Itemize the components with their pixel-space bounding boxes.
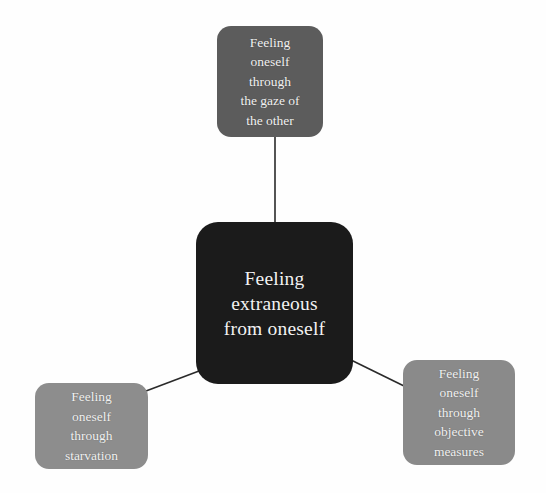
node-feeling-through-starvation[interactable]: Feeling oneself through starvation — [35, 383, 148, 469]
node-label: Feeling oneself through the gaze of the … — [240, 33, 299, 131]
concept-map-diagram: Feeling oneself through the gaze of the … — [0, 0, 546, 493]
node-feeling-extraneous-from-oneself[interactable]: Feeling extraneous from oneself — [196, 222, 353, 384]
connector-center-to-bottom-left — [146, 371, 199, 391]
node-label: Feeling oneself through objective measur… — [434, 364, 484, 462]
node-label: Feeling extraneous from oneself — [224, 266, 326, 341]
node-label: Feeling oneself through starvation — [65, 387, 118, 465]
connector-center-to-bottom-right — [351, 360, 404, 386]
node-feeling-through-objective-measures[interactable]: Feeling oneself through objective measur… — [403, 360, 515, 465]
node-feeling-through-gaze-of-other[interactable]: Feeling oneself through the gaze of the … — [217, 26, 323, 137]
